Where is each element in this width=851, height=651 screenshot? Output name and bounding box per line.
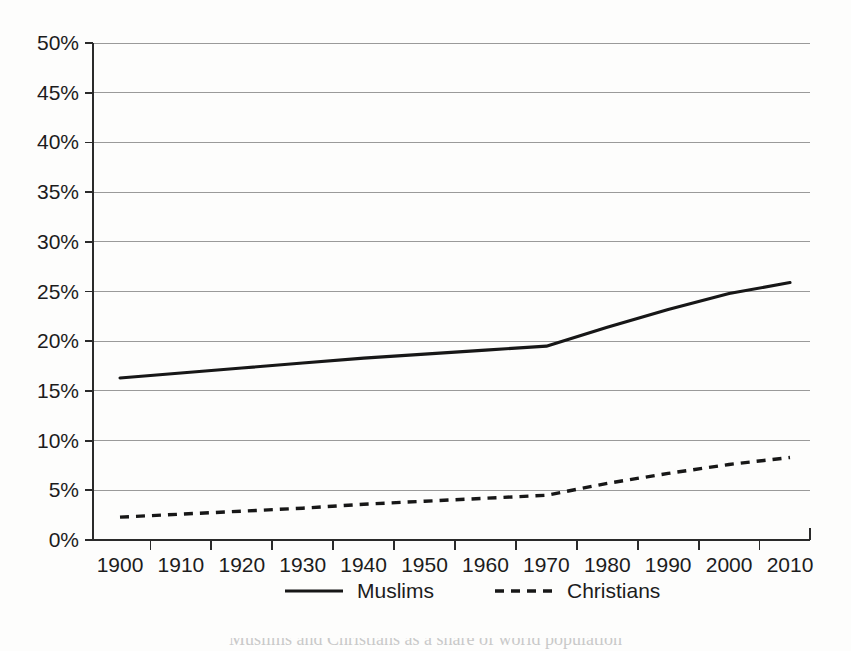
x-tick-label: 2000 [706, 553, 753, 576]
figure-container: 0%5%10%15%20%25%30%35%40%45%50% 19001910… [0, 0, 851, 651]
y-tick-label: 45% [37, 81, 79, 104]
gridlines [93, 43, 810, 490]
x-tick-label: 1900 [97, 553, 144, 576]
y-tick-label: 0% [49, 528, 79, 551]
x-tick-label: 1940 [340, 553, 387, 576]
y-axis-tick-marks [85, 43, 93, 540]
line-chart: 0%5%10%15%20%25%30%35%40%45%50% 19001910… [0, 0, 851, 651]
y-tick-label: 35% [37, 180, 79, 203]
x-axis-tick-marks [150, 540, 759, 550]
y-tick-label: 25% [37, 280, 79, 303]
x-tick-label: 1930 [279, 553, 326, 576]
x-tick-label: 1920 [218, 553, 265, 576]
x-tick-label: 2010 [767, 553, 814, 576]
y-tick-label: 15% [37, 379, 79, 402]
legend-label-muslims: Muslims [357, 579, 434, 602]
chart-legend: MuslimsChristians [285, 579, 660, 602]
data-series [120, 283, 790, 518]
x-tick-label: 1960 [462, 553, 509, 576]
series-line-muslims [120, 283, 790, 378]
series-line-christians [120, 458, 790, 518]
y-axis-tick-labels: 0%5%10%15%20%25%30%35%40%45%50% [37, 31, 79, 551]
x-axis-tick-labels: 1900191019201930194019501960197019801990… [97, 553, 814, 576]
y-tick-label: 10% [37, 429, 79, 452]
y-tick-label: 20% [37, 329, 79, 352]
legend-label-christians: Christians [567, 579, 660, 602]
x-tick-label: 1990 [645, 553, 692, 576]
y-tick-label: 50% [37, 31, 79, 54]
y-tick-label: 30% [37, 230, 79, 253]
x-tick-label: 1980 [584, 553, 631, 576]
y-tick-label: 5% [49, 478, 79, 501]
y-tick-label: 40% [37, 130, 79, 153]
x-tick-label: 1970 [523, 553, 570, 576]
x-tick-label: 1950 [401, 553, 448, 576]
x-tick-label: 1910 [158, 553, 205, 576]
